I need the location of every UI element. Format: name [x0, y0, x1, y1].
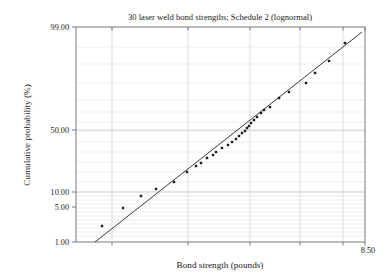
y-tick-label: 5.00: [55, 203, 69, 212]
y-axis-title: Cumulative probability (%): [22, 84, 32, 186]
data-point: [235, 138, 237, 140]
data-point: [200, 162, 202, 164]
y-tick-label: 99.00: [51, 23, 69, 32]
y-tick-label: 50.00: [51, 126, 69, 135]
x-axis-max-tick-label: 8.50: [361, 246, 375, 255]
chart-canvas: 99.0050.0010.005.001.00 8.50 30 laser we…: [0, 0, 390, 280]
data-point: [238, 135, 240, 137]
data-point: [241, 132, 243, 134]
data-point: [101, 225, 103, 227]
probability-plot-figure: 99.0050.0010.005.001.00 8.50 30 laser we…: [0, 0, 390, 280]
y-tick-label: 1.00: [55, 238, 69, 247]
data-point: [231, 141, 233, 143]
data-point: [221, 147, 223, 149]
data-point: [305, 82, 307, 84]
data-point: [344, 42, 346, 44]
chart-title: 30 laser weld bond strengths; Schedule 2…: [128, 12, 312, 22]
data-point: [212, 154, 214, 156]
x-axis-title: Bond strength (pounds): [177, 260, 264, 270]
data-point: [288, 91, 290, 93]
data-point: [195, 165, 197, 167]
data-point: [206, 157, 208, 159]
data-point: [227, 144, 229, 146]
data-point: [155, 188, 157, 190]
data-point: [140, 195, 142, 197]
data-point: [269, 106, 271, 108]
data-point: [215, 151, 217, 153]
data-point: [260, 112, 262, 114]
data-point: [314, 72, 316, 74]
data-point: [248, 125, 250, 127]
data-point: [244, 130, 246, 132]
data-point: [173, 181, 175, 183]
data-point: [263, 109, 265, 111]
y-tick-label: 10.00: [51, 188, 69, 197]
data-point: [250, 122, 252, 124]
data-point: [328, 60, 330, 62]
data-point: [256, 116, 258, 118]
data-point: [253, 119, 255, 121]
data-point: [186, 171, 188, 173]
data-point: [278, 97, 280, 99]
data-point: [122, 207, 124, 209]
